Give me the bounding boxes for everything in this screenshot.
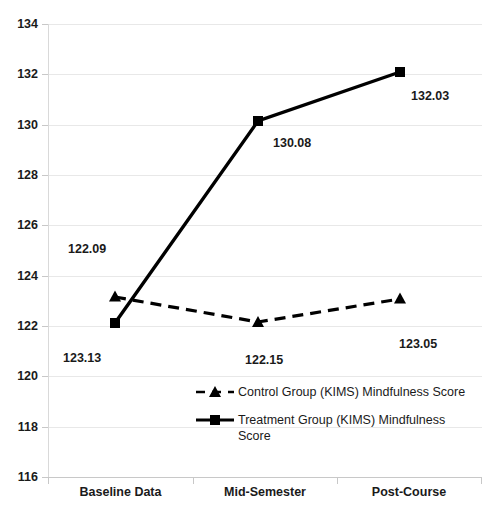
- gridline-126: [48, 225, 482, 226]
- data-label-treatment-mid: 130.08: [273, 137, 311, 150]
- x-divider-2: [337, 477, 338, 484]
- data-label-control-post: 123.05: [399, 338, 437, 351]
- y-axis-line: [48, 24, 49, 477]
- y-tick-mark-120: [42, 376, 48, 377]
- y-tick-mark-134: [42, 24, 48, 25]
- x-axis-label-post-course: Post-Course: [337, 486, 481, 500]
- line-chart: 134 132 130 128 126 124 122 120 118 116 …: [0, 0, 490, 522]
- x-axis-label-mid-semester: Mid-Semester: [193, 486, 337, 500]
- gridline-130: [48, 125, 482, 126]
- gridline-134: [48, 24, 482, 25]
- chart-legend: Control Group (KIMS) Mindfulness Score T…: [196, 384, 474, 456]
- gridline-120: [48, 376, 482, 377]
- data-label-control-baseline: 123.13: [63, 352, 101, 365]
- gridline-124: [48, 276, 482, 277]
- y-tick-mark-126: [42, 225, 48, 226]
- x-axis-label-baseline: Baseline Data: [48, 486, 193, 500]
- legend-key-control: [196, 384, 234, 400]
- y-tick-mark-130: [42, 125, 48, 126]
- legend-item-treatment-group: Treatment Group (KIMS) Mindfulness Score: [196, 412, 474, 444]
- legend-label-treatment-group: Treatment Group (KIMS) Mindfulness Score: [238, 412, 474, 444]
- legend-key-treatment: [196, 412, 234, 428]
- square-marker-icon: [210, 415, 220, 425]
- y-axis-label-116: 116: [0, 471, 38, 484]
- x-divider-1: [193, 477, 194, 484]
- y-axis-label-118: 118: [0, 421, 38, 434]
- y-tick-mark-132: [42, 74, 48, 75]
- y-axis-label-122: 122: [0, 320, 38, 333]
- y-axis-label-130: 130: [0, 119, 38, 132]
- x-axis-line: [48, 477, 482, 478]
- y-tick-mark-124: [42, 276, 48, 277]
- data-label-control-mid: 122.15: [245, 354, 283, 367]
- data-label-treatment-post: 132.03: [411, 90, 449, 103]
- data-label-treatment-baseline: 122.09: [68, 243, 106, 256]
- gridline-132: [48, 74, 482, 75]
- y-axis-label-128: 128: [0, 169, 38, 182]
- legend-item-control-group: Control Group (KIMS) Mindfulness Score: [196, 384, 474, 400]
- y-axis-label-132: 132: [0, 68, 38, 81]
- y-axis-label-126: 126: [0, 219, 38, 232]
- y-tick-mark-118: [42, 427, 48, 428]
- gridline-122: [48, 326, 482, 327]
- x-divider-left: [48, 477, 49, 484]
- y-axis-label-120: 120: [0, 370, 38, 383]
- legend-label-control-group: Control Group (KIMS) Mindfulness Score: [238, 384, 465, 400]
- y-axis-label-124: 124: [0, 270, 38, 283]
- gridline-128: [48, 175, 482, 176]
- y-axis-label-134: 134: [0, 18, 38, 31]
- y-tick-mark-128: [42, 175, 48, 176]
- y-tick-mark-122: [42, 326, 48, 327]
- x-divider-right: [481, 477, 482, 484]
